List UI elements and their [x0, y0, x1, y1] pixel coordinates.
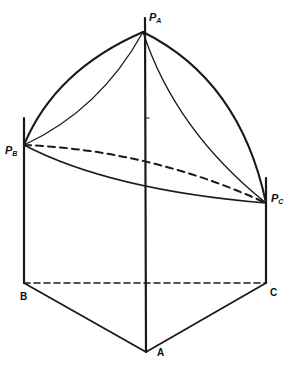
inner-arc-pa-pb: [24, 32, 143, 145]
label-b: B: [20, 292, 27, 302]
label-pb: PB: [5, 145, 17, 157]
prism-diagram: [0, 0, 286, 378]
label-pa-sub: A: [156, 17, 161, 24]
label-pc-sub: C: [278, 198, 283, 205]
inner-arc-pa-pc: [143, 32, 266, 203]
label-pa: PA: [149, 12, 161, 24]
label-pc: PC: [271, 193, 283, 205]
label-pb-sub: B: [12, 150, 17, 157]
label-a: A: [157, 348, 164, 358]
edge-vertical-a: [145, 18, 146, 352]
outer-arc-pa-pc: [143, 32, 266, 203]
base-edge-ba: [24, 283, 146, 352]
outer-arc-pa-pb: [24, 32, 143, 145]
base-edge-ac: [146, 283, 266, 352]
label-c: C: [270, 288, 277, 298]
